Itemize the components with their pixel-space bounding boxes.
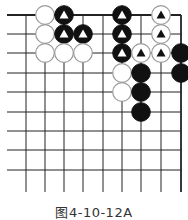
white-stone-marked	[132, 44, 151, 63]
black-stone-marked	[113, 44, 132, 63]
white-stone	[113, 83, 132, 102]
black-stone	[132, 64, 151, 83]
figure-caption: 图4-10-12A	[0, 202, 188, 220]
white-stone	[113, 64, 132, 83]
stones-layer	[36, 6, 188, 122]
black-stone-marked	[74, 25, 93, 44]
black-stone-marked	[55, 6, 74, 25]
black-stone	[132, 103, 151, 122]
black-stone	[172, 44, 188, 63]
white-stone	[74, 44, 93, 63]
go-board	[0, 0, 188, 200]
black-stone-marked	[113, 6, 132, 25]
white-stone-marked	[152, 44, 171, 63]
white-stone	[55, 44, 74, 63]
white-stone	[36, 6, 55, 25]
black-stone-marked	[55, 25, 74, 44]
black-stone-marked	[113, 25, 132, 44]
black-stone	[172, 64, 188, 83]
black-stone	[132, 83, 151, 102]
white-stone-marked	[152, 6, 171, 25]
white-stone	[36, 25, 55, 44]
white-stone	[36, 44, 55, 63]
white-stone-marked	[152, 25, 171, 44]
